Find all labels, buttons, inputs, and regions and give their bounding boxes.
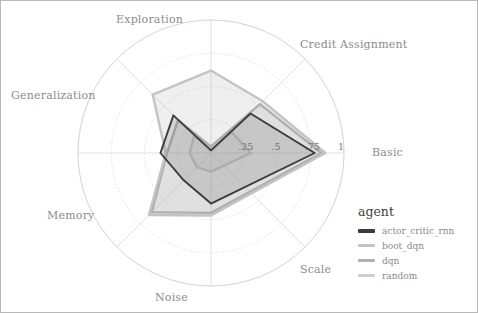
legend-entry-label: random (382, 271, 417, 281)
axis-label-basic: Basic (372, 146, 403, 159)
legend-entry-label: actor_critic_rnn (382, 226, 454, 236)
legend-entry[interactable]: boot_dqn (358, 239, 476, 252)
radial-tick-label: 1 (338, 141, 344, 152)
axis-label-scale: Scale (300, 263, 331, 276)
legend-entry[interactable]: actor_critic_rnn (358, 224, 476, 237)
legend-swatch-icon (358, 244, 375, 247)
legend-entry-label: dqn (382, 256, 399, 266)
legend-entry[interactable]: dqn (358, 254, 476, 267)
legend-entry-list: actor_critic_rnnboot_dqndqnrandom (358, 224, 476, 282)
legend-entry-label: boot_dqn (382, 241, 424, 251)
chart-figure: BasicCredit AssignmentExplorationGeneral… (0, 0, 478, 313)
legend-swatch-icon (358, 259, 375, 262)
axis-label-memory: Memory (47, 209, 95, 222)
legend-title: agent (358, 204, 476, 219)
axis-label-noise: Noise (155, 291, 188, 304)
legend: agent actor_critic_rnnboot_dqndqnrandom (358, 204, 476, 284)
radial-tick-label: .5 (272, 141, 281, 152)
radial-tick-label: .25 (238, 141, 253, 152)
axis-label-generalization: Generalization (11, 89, 96, 102)
legend-swatch-icon (358, 274, 375, 277)
axis-label-credit-assignment: Credit Assignment (300, 38, 407, 51)
legend-swatch-icon (358, 229, 375, 233)
axis-label-exploration: Exploration (116, 13, 183, 26)
radial-tick-label: .75 (305, 141, 320, 152)
legend-entry[interactable]: random (358, 269, 476, 282)
